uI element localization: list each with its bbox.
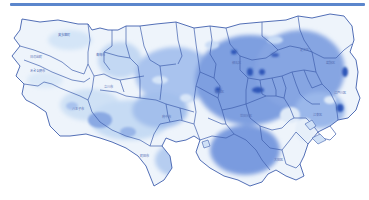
- map-label: 葛飾区: [326, 60, 336, 65]
- map-label: 大田区: [274, 157, 284, 162]
- map-label: 世田谷区: [240, 113, 253, 118]
- map-label: 府中市: [162, 114, 172, 119]
- map-label: 青梅市: [96, 52, 106, 57]
- map-label: 八王子市: [72, 106, 85, 111]
- map-label: あきる野市: [30, 68, 46, 73]
- map-label: 江戸川区: [334, 90, 347, 95]
- map-label: 立川市: [104, 84, 114, 89]
- map-label: 奥多摩町: [58, 32, 71, 37]
- tokyo-map: 奥多摩町 日の出町 あきる野市 八王子市 町田市 青梅市 立川市 練馬区 足立区…: [0, 0, 369, 200]
- map-label: 江東区: [313, 112, 323, 117]
- map-label: 練馬区: [232, 60, 242, 65]
- map-label: 日の出町: [30, 54, 43, 59]
- map-label: 杉並区: [215, 89, 225, 94]
- map-label: 足立区: [300, 47, 310, 52]
- map-label: 町田市: [140, 153, 150, 158]
